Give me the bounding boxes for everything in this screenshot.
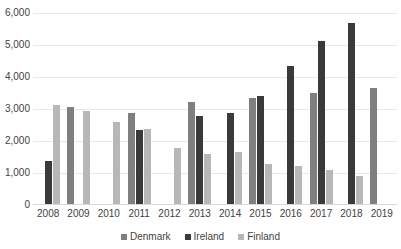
bar-finland-2008 [53,105,60,205]
bar-group-2010 [94,13,124,205]
bar-group-2014 [215,13,245,205]
legend-swatch-denmark-icon [121,234,127,240]
bar-denmark-2019 [370,88,377,205]
y-axis-tick-label: 5,000 [5,40,30,50]
bar-denmark-2017 [310,93,317,205]
bar-denmark-2013 [188,102,195,205]
x-axis: 2008200920102011201220132014201520162017… [33,207,397,223]
legend-item-finland[interactable]: Finland [238,232,280,242]
bar-denmark-2011 [128,113,135,205]
bar-finland-2013 [204,154,211,205]
x-axis-tick-label: 2010 [94,207,124,223]
x-axis-tick-label: 2013 [185,207,215,223]
y-axis-tick-label: 1,000 [5,168,30,178]
y-axis: 01,0002,0003,0004,0005,0006,000 [0,0,33,212]
bar-ireland-2014 [227,113,234,205]
legend-swatch-ireland-icon [185,234,191,240]
bar-finland-2017 [326,170,333,205]
bar-group-2011 [124,13,154,205]
bar-finland-2012 [174,148,181,205]
bar-group-2016 [276,13,306,205]
bar-ireland-2008 [45,161,52,205]
bar-chart: 01,0002,0003,0004,0005,0006,000 20082009… [0,0,401,249]
bar-denmark-2009 [67,107,74,205]
bar-group-2019 [367,13,397,205]
x-axis-tick-label: 2012 [154,207,184,223]
chart-legend: DenmarkIrelandFinland [0,230,401,244]
bar-finland-2011 [144,129,151,205]
x-axis-tick-label: 2018 [336,207,366,223]
y-axis-tick-label: 0 [24,200,30,210]
y-axis-tick-label: 3,000 [5,104,30,114]
legend-label: Ireland [194,232,225,242]
x-axis-tick-label: 2017 [306,207,336,223]
y-axis-tick-label: 6,000 [5,8,30,18]
bar-ireland-2016 [287,66,294,205]
x-axis-tick-label: 2008 [33,207,63,223]
bar-ireland-2015 [257,96,264,205]
bar-finland-2010 [113,122,120,205]
bar-finland-2016 [295,166,302,205]
bar-finland-2014 [235,152,242,205]
bar-group-2018 [336,13,366,205]
legend-label: Finland [247,232,280,242]
axis-baseline [33,204,397,205]
legend-item-ireland[interactable]: Ireland [185,232,225,242]
plot-area [33,13,397,205]
bar-ireland-2011 [136,130,143,205]
x-axis-tick-label: 2011 [124,207,154,223]
bar-finland-2015 [265,164,272,205]
bar-group-2017 [306,13,336,205]
bar-group-2008 [33,13,63,205]
bar-denmark-2015 [249,98,256,205]
x-axis-tick-label: 2009 [63,207,93,223]
bar-group-2013 [185,13,215,205]
bar-group-2012 [154,13,184,205]
legend-swatch-finland-icon [238,234,244,240]
legend-item-denmark[interactable]: Denmark [121,232,171,242]
bar-ireland-2017 [318,41,325,205]
x-axis-tick-label: 2015 [245,207,275,223]
bar-finland-2009 [83,111,90,205]
x-axis-tick-label: 2019 [367,207,397,223]
bar-ireland-2018 [348,23,355,205]
bar-finland-2018 [356,176,363,205]
y-axis-tick-label: 4,000 [5,72,30,82]
x-axis-tick-label: 2016 [276,207,306,223]
legend-label: Denmark [130,232,171,242]
bars-layer [33,13,397,205]
y-axis-tick-label: 2,000 [5,136,30,146]
bar-ireland-2013 [196,116,203,205]
bar-group-2009 [63,13,93,205]
x-axis-tick-label: 2014 [215,207,245,223]
bar-group-2015 [245,13,275,205]
